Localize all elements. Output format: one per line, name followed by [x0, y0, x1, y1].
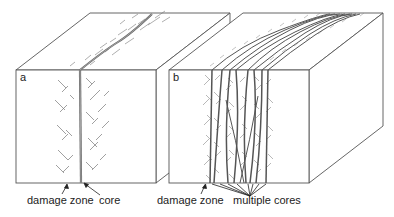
panel-label-b: b — [173, 71, 179, 83]
core-label-a: core — [99, 194, 120, 206]
fault-core-a — [80, 70, 81, 183]
damage-zone-label-b: damage zone — [157, 194, 224, 206]
multiple-cores-label-b: multiple cores — [233, 194, 301, 206]
fault-zone-diagram — [0, 0, 394, 217]
damage-zone-label-a: damage zone — [27, 194, 94, 206]
panel-label-a: a — [20, 71, 26, 83]
